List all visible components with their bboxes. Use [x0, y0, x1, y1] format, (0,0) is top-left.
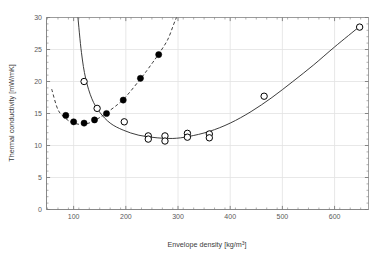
x-tick-label: 200 — [120, 213, 132, 220]
data-point-open-circle — [206, 135, 212, 141]
x-tick-label: 100 — [68, 213, 80, 220]
x-axis-title: Envelope density [kg/m3] — [167, 240, 246, 249]
y-tick-label: 30 — [34, 14, 42, 21]
y-tick-label: 5 — [38, 174, 42, 181]
data-point-open-circle — [121, 119, 127, 125]
data-point-open-circle — [356, 24, 362, 30]
y-axis-title: Thermal conductivity [mW/mK] — [7, 64, 16, 161]
data-point-filled-circle — [103, 110, 109, 116]
data-point-filled-circle — [81, 120, 87, 126]
data-point-open-circle — [162, 138, 168, 144]
x-tick-label: 300 — [172, 213, 184, 220]
x-tick-label: 500 — [277, 213, 289, 220]
data-point-filled-circle — [137, 75, 143, 81]
data-point-filled-circle — [156, 52, 162, 58]
thermal-conductivity-scatter-plot: 100200300400500600051015202530 Envelope … — [0, 0, 388, 264]
y-tick-label: 20 — [34, 78, 42, 85]
data-point-open-circle — [184, 134, 190, 140]
data-point-open-circle — [94, 105, 100, 111]
y-tick-label: 0 — [38, 206, 42, 213]
data-point-filled-circle — [63, 112, 69, 118]
data-point-open-circle — [261, 93, 267, 99]
figure-background — [0, 0, 388, 264]
y-tick-label: 10 — [34, 142, 42, 149]
data-point-filled-circle — [71, 119, 77, 125]
x-tick-label: 600 — [329, 213, 341, 220]
y-tick-label: 25 — [34, 46, 42, 53]
data-point-open-circle — [145, 136, 151, 142]
data-point-open-circle — [81, 78, 87, 84]
chart-figure: 100200300400500600051015202530 Envelope … — [0, 0, 388, 264]
data-point-filled-circle — [120, 97, 126, 103]
y-tick-label: 15 — [34, 110, 42, 117]
x-tick-label: 400 — [224, 213, 236, 220]
data-point-filled-circle — [91, 117, 97, 123]
